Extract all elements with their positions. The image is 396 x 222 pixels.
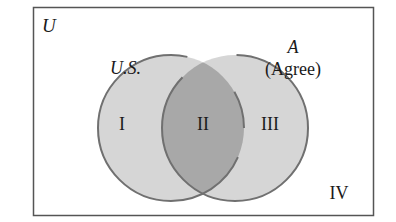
set-a-label: A <box>287 37 300 57</box>
universe-label: U <box>42 15 57 36</box>
region-IV-label: IV <box>330 183 349 203</box>
set-a-sublabel: (Agree) <box>265 59 321 80</box>
region-II-label: II <box>197 114 209 134</box>
venn-diagram: U U.S. A (Agree) I II III IV <box>0 0 396 222</box>
region-III-label: III <box>261 114 279 134</box>
set-us-label: U.S. <box>110 58 141 78</box>
region-I-label: I <box>119 114 125 134</box>
